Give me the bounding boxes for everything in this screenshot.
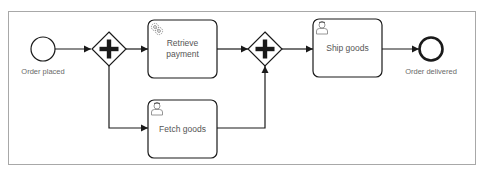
end-event[interactable] xyxy=(420,38,443,61)
task-label-retrieve-payment: Retrieve payment xyxy=(160,20,205,78)
start-event[interactable] xyxy=(31,37,55,61)
start-event-label: Order placed xyxy=(13,67,73,76)
flow-fetch-to-join[interactable] xyxy=(217,66,265,128)
flow-split-to-fetch[interactable] xyxy=(109,66,148,128)
bpmn-canvas xyxy=(0,0,483,175)
parallel-gateway-split[interactable] xyxy=(92,32,126,66)
task-label-ship-goods: Ship goods xyxy=(313,19,382,77)
task-label-fetch-goods: Fetch goods xyxy=(148,100,217,158)
end-event-label: Order delivered xyxy=(396,67,466,76)
parallel-gateway-join[interactable] xyxy=(248,32,282,66)
